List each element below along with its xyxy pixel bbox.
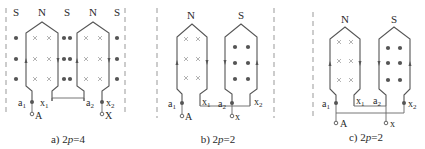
current-direction-arrow-icon — [176, 60, 179, 65]
current-out-of-page-icon — [14, 36, 119, 81]
current-direction-arrow-icon — [256, 60, 259, 65]
coil-outline — [26, 22, 58, 101]
parallel-connection-wire — [336, 103, 404, 113]
panel-caption: b) 2p=2 — [201, 133, 236, 146]
terminal-icon — [100, 112, 104, 116]
pole-label: N — [187, 9, 195, 21]
junction-dot-icon — [334, 101, 338, 105]
terminal-label-a2: a2 — [86, 97, 94, 110]
terminal-label-a1: a1 — [168, 98, 176, 111]
panel-c-two-pole-parallel: N S a1 x1 a2 x2 A x c) 2p=2 — [313, 12, 417, 144]
terminal-label-x2: x2 — [254, 96, 263, 109]
current-direction-arrow-icon — [108, 58, 111, 63]
terminal-label-a1: a1 — [322, 98, 330, 111]
coil-outline — [77, 22, 109, 101]
current-direction-arrow-icon — [76, 58, 79, 63]
pole-label: N — [38, 6, 46, 18]
current-direction-arrow-icon — [25, 58, 28, 63]
current-into-page-icon — [84, 36, 102, 81]
coil-outline — [379, 27, 410, 106]
panel-caption: c) 2p=2 — [349, 131, 383, 144]
junction-dot-icon — [100, 100, 104, 104]
terminal-label-start: A — [340, 118, 348, 129]
terminal-label-x1: x1 — [202, 96, 211, 109]
terminal-label-end: X — [105, 110, 113, 121]
current-out-of-page-icon — [386, 46, 402, 82]
pole-label: S — [13, 6, 19, 18]
terminal-label-x1: x1 — [40, 97, 49, 110]
pole-label: S — [64, 6, 70, 18]
terminal-label-x2: x2 — [106, 97, 115, 110]
terminal-label-x2: x2 — [408, 98, 417, 111]
panel-a-four-pole: S N S N S — [6, 6, 125, 146]
terminal-label-a1: a1 — [18, 97, 26, 110]
current-direction-arrow-icon — [359, 61, 362, 66]
current-into-page-icon — [337, 40, 353, 82]
junction-dot-icon — [180, 101, 184, 105]
terminal-label-end: x — [235, 111, 240, 122]
junction-dot-icon — [30, 100, 34, 104]
series-connection-wire — [52, 98, 84, 101]
current-into-page-icon — [184, 37, 200, 80]
current-direction-arrow-icon — [57, 58, 60, 63]
terminal-label-start: A — [185, 111, 193, 122]
terminal-label-end: x — [390, 118, 395, 129]
coil-outline — [177, 24, 207, 106]
terminal-icon — [180, 114, 184, 118]
panel-caption: a) 2p=4 — [51, 133, 86, 146]
current-direction-arrow-icon — [409, 61, 412, 66]
coil-outline — [225, 24, 257, 106]
current-direction-arrow-icon — [206, 60, 209, 65]
terminal-icon — [334, 121, 338, 125]
current-direction-arrow-icon — [378, 61, 381, 66]
pole-label: S — [114, 6, 120, 18]
terminal-label-start: A — [35, 110, 43, 121]
winding-diagram: S N S N S — [0, 0, 425, 149]
terminal-icon — [384, 121, 388, 125]
current-into-page-icon — [33, 36, 51, 81]
terminal-icon — [30, 112, 34, 116]
pole-label: N — [341, 13, 349, 25]
terminal-label-a2: a2 — [218, 98, 226, 111]
current-direction-arrow-icon — [329, 61, 332, 66]
pole-label: S — [391, 13, 397, 25]
junction-dot-icon — [402, 101, 406, 105]
pole-label: N — [89, 6, 97, 18]
current-direction-arrow-icon — [224, 60, 227, 65]
current-out-of-page-icon — [233, 45, 250, 81]
terminal-icon — [230, 114, 234, 118]
pole-label: S — [238, 9, 244, 21]
panel-b-two-pole-series: N S a1 x1 a2 x2 A x b) 2p=2 — [157, 8, 274, 146]
junction-dot-icon — [230, 101, 234, 105]
